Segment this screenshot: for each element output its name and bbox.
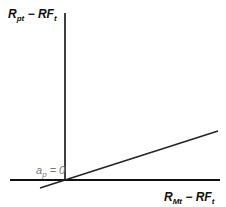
intercept-label: ap = 0 bbox=[36, 164, 65, 179]
y-axis-label: Rpt − RFt bbox=[8, 7, 57, 23]
x-axis-label: RMt − RFt bbox=[164, 190, 214, 206]
diagram-canvas bbox=[0, 0, 226, 207]
